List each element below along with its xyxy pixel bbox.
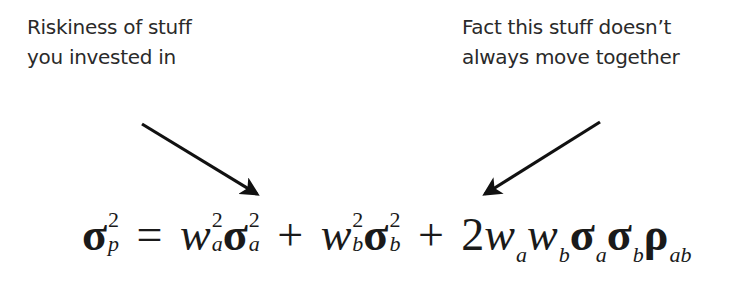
subscript: b [389,233,400,255]
supsub: 2a [212,209,223,255]
subscript: a [596,242,607,267]
arrow-left-icon [142,124,257,194]
sigma-symbol: σ [570,209,595,260]
subscript: b [559,242,570,267]
subscript: ab [669,242,691,267]
sigma-symbol: σ [363,209,388,260]
superscript: 2 [212,209,223,231]
subscript: p [108,233,119,255]
sigma-symbol: σ [82,209,107,260]
supsub: 2b [352,209,363,255]
plus-sign: + [277,209,303,260]
sigma-symbol: σ [607,209,632,260]
plus-sign: + [418,209,444,260]
supsub: 2p [108,209,119,255]
superscript: 2 [249,209,260,231]
weight-symbol: w [484,209,515,260]
weight-symbol: w [321,209,352,260]
lhs-sigma-p-squared: σ2p [82,205,119,265]
term-weighted-variance-b: w2bσ2b [321,205,401,265]
arrow-right-icon [485,122,600,194]
term-covariance: 2wawbσaσbρab [461,205,691,285]
superscript: 2 [352,209,363,231]
superscript: 2 [108,209,119,231]
subscript: a [249,233,260,255]
weight-symbol: w [180,209,211,260]
subscript: a [212,233,223,255]
superscript: 2 [389,209,400,231]
equals-sign: = [137,209,163,260]
supsub: 2b [389,209,400,255]
supsub: 2a [249,209,260,255]
weight-symbol: w [527,209,558,260]
coefficient: 2 [461,209,484,260]
sigma-symbol: σ [223,209,248,260]
subscript: b [633,242,644,267]
term-weighted-variance-a: w2aσ2a [180,205,260,265]
subscript: a [516,242,527,267]
rho-symbol: ρ [644,209,669,260]
subscript: b [352,233,363,255]
portfolio-variance-formula: σ2p = w2aσ2a + w2bσ2b + 2wawbσaσbρab [82,205,691,285]
